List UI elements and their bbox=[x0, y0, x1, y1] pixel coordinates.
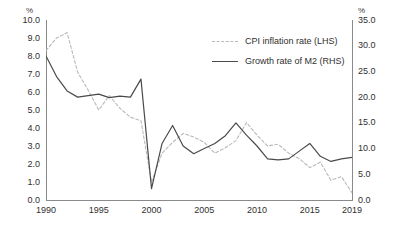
x-axis-tick-5: 2015 bbox=[290, 206, 330, 215]
x-axis-tick-2: 2000 bbox=[132, 206, 172, 215]
right-axis-unit-label: % bbox=[358, 6, 365, 15]
series-line-m2-growth-rate bbox=[46, 56, 352, 189]
left-axis-tick-10: 10.0 bbox=[14, 16, 40, 25]
right-axis-tick-5: 25.0 bbox=[358, 67, 388, 76]
plot-area bbox=[46, 20, 352, 200]
right-axis-line bbox=[352, 20, 353, 201]
right-axis-tick-4: 20.0 bbox=[358, 93, 388, 102]
left-axis-tick-7: 7.0 bbox=[14, 70, 40, 79]
legend-item-m2-growth-rate: Growth rate of M2 (RHS) bbox=[212, 56, 345, 66]
legend-swatch-solid-icon bbox=[212, 57, 238, 65]
legend-swatch-dashed-icon bbox=[212, 37, 238, 45]
chart-container: % % 0.01.02.03.04.05.06.07.08.09.010.0 0… bbox=[0, 0, 397, 232]
left-axis-tick-3: 3.0 bbox=[14, 142, 40, 151]
left-axis-tick-6: 6.0 bbox=[14, 88, 40, 97]
left-axis-tick-4: 4.0 bbox=[14, 124, 40, 133]
right-axis-tick-2: 10.0 bbox=[358, 144, 388, 153]
legend-label-m2: Growth rate of M2 (RHS) bbox=[245, 56, 345, 66]
left-axis-unit-label: % bbox=[26, 6, 33, 15]
left-axis-tick-0: 0.0 bbox=[14, 196, 40, 205]
x-axis-tick-3: 2005 bbox=[184, 206, 224, 215]
right-axis-tick-0: 0.0 bbox=[358, 196, 388, 205]
right-axis-tick-6: 30.0 bbox=[358, 41, 388, 50]
left-axis-tick-2: 2.0 bbox=[14, 160, 40, 169]
x-axis-tick-4: 2010 bbox=[237, 206, 277, 215]
x-axis-line bbox=[46, 200, 353, 201]
x-axis-tick-0: 1990 bbox=[26, 206, 66, 215]
left-axis-tick-1: 1.0 bbox=[14, 178, 40, 187]
legend-label-cpi: CPI inflation rate (LHS) bbox=[245, 36, 338, 46]
right-axis-tick-3: 15.0 bbox=[358, 118, 388, 127]
legend-item-cpi-inflation-rate: CPI inflation rate (LHS) bbox=[212, 36, 338, 46]
left-axis-tick-8: 8.0 bbox=[14, 52, 40, 61]
left-axis-tick-5: 5.0 bbox=[14, 106, 40, 115]
right-axis-tick-1: 5.0 bbox=[358, 170, 388, 179]
x-axis-tick-1: 1995 bbox=[79, 206, 119, 215]
x-axis-tick-6: 2019 bbox=[332, 206, 372, 215]
left-axis-tick-9: 9.0 bbox=[14, 34, 40, 43]
right-axis-tick-7: 35.0 bbox=[358, 16, 388, 25]
